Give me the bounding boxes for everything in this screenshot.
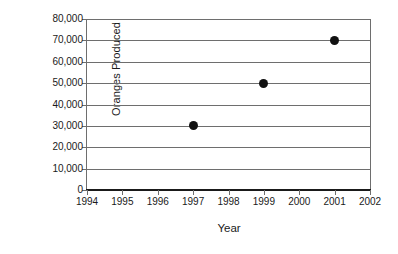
x-tick-mark — [264, 190, 265, 195]
x-tick-mark — [299, 190, 300, 195]
x-tick-mark — [229, 190, 230, 195]
gridline — [87, 83, 370, 84]
chart-container: Oranges Produced Year 80,00070,00060,000… — [0, 0, 398, 254]
x-tick-label: 1997 — [173, 197, 213, 207]
gridline — [87, 40, 370, 41]
x-tick-label: 1998 — [209, 197, 249, 207]
y-tick-label: 0 — [31, 185, 83, 195]
gridline — [87, 147, 370, 148]
data-point — [259, 79, 268, 88]
x-tick-label: 2001 — [315, 197, 355, 207]
x-tick-mark — [193, 190, 194, 195]
gridline — [87, 126, 370, 127]
x-tick-mark — [158, 190, 159, 195]
x-tick-mark — [87, 190, 88, 195]
plot-right-border — [370, 19, 371, 190]
x-tick-label: 1994 — [67, 197, 107, 207]
y-tick-label: 60,000 — [31, 57, 83, 67]
y-tick-label: 40,000 — [31, 100, 83, 110]
y-tick-label: 20,000 — [31, 142, 83, 152]
gridline — [87, 105, 370, 106]
x-tick-label: 1999 — [244, 197, 284, 207]
y-tick-label: 30,000 — [31, 121, 83, 131]
x-tick-label: 1996 — [138, 197, 178, 207]
y-tick-label: 80,000 — [31, 14, 83, 24]
data-point — [330, 36, 339, 45]
y-tick-label: 50,000 — [31, 78, 83, 88]
x-tick-mark — [370, 190, 371, 195]
x-tick-mark — [335, 190, 336, 195]
plot-area — [87, 19, 370, 190]
x-tick-mark — [122, 190, 123, 195]
gridline — [87, 62, 370, 63]
gridline — [87, 19, 370, 20]
y-tick-label: 10,000 — [31, 164, 83, 174]
x-axis-title: Year — [87, 222, 371, 234]
x-tick-label: 1995 — [102, 197, 142, 207]
data-point — [189, 121, 198, 130]
gridline — [87, 169, 370, 170]
y-tick-label: 70,000 — [31, 35, 83, 45]
x-tick-label: 2002 — [350, 197, 390, 207]
x-tick-label: 2000 — [279, 197, 319, 207]
